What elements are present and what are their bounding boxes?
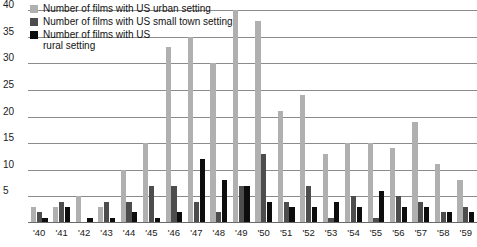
- bar-group: [275, 10, 297, 223]
- x-tick-label: '55: [365, 227, 387, 239]
- bar-rural: [222, 180, 227, 223]
- y-tick-label: 15: [3, 132, 25, 143]
- bar-small: [396, 196, 401, 223]
- y-tick-label: 40: [3, 0, 25, 10]
- x-tick-label: '43: [95, 227, 117, 239]
- x-tick-label: '45: [140, 227, 162, 239]
- bar-small: [463, 207, 468, 223]
- bar-chart: 510152025303540 '40'41'42'43'44'45'46'47…: [0, 0, 477, 247]
- bar-small: [239, 186, 244, 223]
- x-tick-label: '53: [320, 227, 342, 239]
- bar-small: [171, 186, 176, 223]
- x-tick-label: '54: [342, 227, 364, 239]
- bar-urban: [278, 111, 283, 223]
- bar-small: [126, 202, 131, 223]
- x-tick-label: '50: [253, 227, 275, 239]
- bar-small: [306, 186, 311, 223]
- legend-label-urban: Number of films with US urban setting: [43, 3, 211, 15]
- bar-urban: [188, 37, 193, 223]
- bar-rural: [312, 207, 317, 223]
- y-tick-label: 10: [3, 159, 25, 170]
- legend-item-rural: Number of films with US rural setting: [30, 29, 260, 42]
- x-tick-label: '57: [410, 227, 432, 239]
- y-tick-label: 35: [3, 26, 25, 37]
- bar-rural: [357, 207, 362, 223]
- bar-rural: [200, 159, 205, 223]
- bar-urban: [31, 207, 36, 223]
- x-tick-label: '56: [387, 227, 409, 239]
- x-tick-label: '47: [185, 227, 207, 239]
- x-tick-label: '40: [28, 227, 50, 239]
- y-tick-label: 30: [3, 52, 25, 63]
- bar-urban: [323, 154, 328, 223]
- x-tick-label: '48: [208, 227, 230, 239]
- bar-rural: [65, 207, 70, 223]
- legend-item-urban: Number of films with US urban setting: [30, 3, 260, 16]
- bar-group: [297, 10, 319, 223]
- bar-small: [418, 202, 423, 223]
- bar-small: [149, 186, 154, 223]
- axis-baseline: [28, 222, 477, 223]
- x-tick-label: '51: [275, 227, 297, 239]
- legend-item-small-town: Number of films with US small town setti…: [30, 16, 260, 29]
- x-tick-label: '49: [230, 227, 252, 239]
- bar-rural: [289, 207, 294, 223]
- bar-urban: [368, 143, 373, 223]
- y-tick-label: 20: [3, 106, 25, 117]
- y-tick-label: 5: [3, 185, 25, 196]
- bar-urban: [300, 95, 305, 223]
- bar-urban: [412, 122, 417, 223]
- bar-urban: [390, 148, 395, 223]
- bar-group: [320, 10, 342, 223]
- bar-small: [194, 202, 199, 223]
- bar-small: [351, 196, 356, 223]
- bar-urban: [210, 63, 215, 223]
- bar-group: [410, 10, 432, 223]
- bar-group: [342, 10, 364, 223]
- bar-urban: [457, 180, 462, 223]
- bar-rural: [402, 207, 407, 223]
- bar-urban: [121, 170, 126, 223]
- bar-rural: [334, 202, 339, 223]
- x-tick-label: '42: [73, 227, 95, 239]
- bar-urban: [255, 21, 260, 223]
- y-tick-label: 25: [3, 79, 25, 90]
- bar-rural: [267, 202, 272, 223]
- bar-small: [284, 202, 289, 223]
- legend: Number of films with US urban setting Nu…: [30, 3, 260, 42]
- bar-urban: [53, 207, 58, 223]
- bar-urban: [98, 207, 103, 223]
- bar-group: [455, 10, 477, 223]
- legend-swatch-rural-icon: [30, 31, 38, 39]
- bar-rural: [244, 186, 249, 223]
- bar-urban: [143, 143, 148, 223]
- legend-label-small-town: Number of films with US small town setti…: [43, 16, 233, 28]
- bar-group: [432, 10, 454, 223]
- bar-small: [261, 154, 266, 223]
- bar-urban: [76, 196, 81, 223]
- bar-rural: [379, 191, 384, 223]
- x-axis-tick-labels: '40'41'42'43'44'45'46'47'48'49'50'51'52'…: [28, 225, 477, 245]
- legend-label-rural: Number of films with US rural setting: [43, 29, 163, 51]
- bar-group: [387, 10, 409, 223]
- x-tick-label: '58: [432, 227, 454, 239]
- x-tick-label: '59: [455, 227, 477, 239]
- bar-small: [104, 202, 109, 223]
- bar-urban: [345, 143, 350, 223]
- x-tick-label: '52: [297, 227, 319, 239]
- bar-group: [365, 10, 387, 223]
- bar-urban: [435, 164, 440, 223]
- x-tick-label: '46: [163, 227, 185, 239]
- bar-small: [59, 202, 64, 223]
- legend-swatch-urban-icon: [30, 5, 38, 13]
- bar-urban: [166, 47, 171, 223]
- x-tick-label: '41: [50, 227, 72, 239]
- legend-swatch-small-town-icon: [30, 18, 38, 26]
- bar-rural: [424, 207, 429, 223]
- x-tick-label: '44: [118, 227, 140, 239]
